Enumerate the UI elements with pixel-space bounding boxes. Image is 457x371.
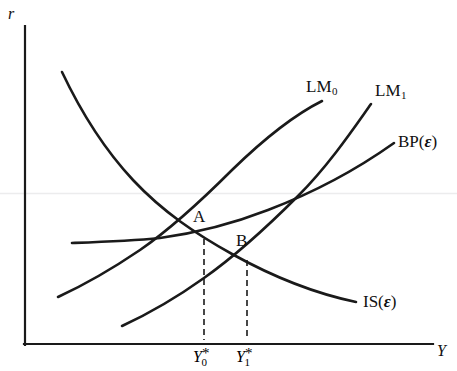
x-axis-label: Y [437, 343, 446, 359]
is-label-suffix: ) [391, 292, 397, 311]
x-tick-y1: Y*1 [236, 348, 258, 366]
lm0-label-text: LM [306, 77, 332, 96]
x-tick-y0-index: 0 [201, 356, 207, 368]
bp-label-prefix: BP( [398, 132, 424, 151]
lm0-label: LM0 [306, 78, 337, 95]
lm1-label-text: LM [375, 81, 401, 100]
is-lm-bp-figure: r Y LM0 LM1 BP(ε) IS(ε) A B Y*0 Y*1 [0, 0, 457, 371]
bp-label-suffix: ) [431, 132, 437, 151]
is-label: IS(ε) [363, 293, 396, 310]
point-label-b: B [236, 232, 247, 249]
x-tick-y1-index: 1 [244, 356, 250, 368]
y-axis-label: r [8, 6, 14, 22]
bp-label: BP(ε) [398, 133, 437, 150]
lm0-curve [58, 101, 322, 297]
is-label-prefix: IS( [363, 292, 384, 311]
point-label-a: A [193, 208, 205, 225]
lm0-label-subscript: 0 [332, 85, 338, 97]
x-tick-y0: Y*0 [193, 348, 215, 366]
lm1-label-subscript: 1 [401, 89, 407, 101]
lm1-label: LM1 [375, 82, 406, 99]
is-label-epsilon: ε [384, 292, 391, 311]
chart-canvas [0, 0, 457, 371]
